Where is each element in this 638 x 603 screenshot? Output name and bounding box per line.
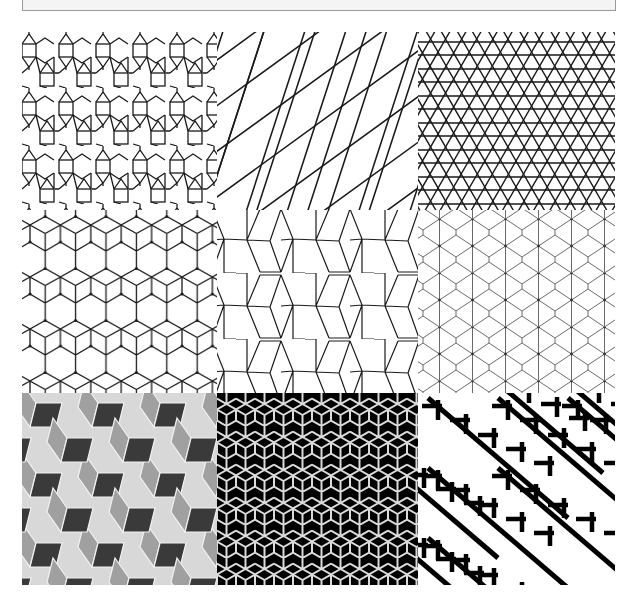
rhombille-lines-pattern bbox=[22, 210, 217, 393]
square-triangle-hexagon-pattern bbox=[22, 32, 217, 210]
panel-elongated-hexagons bbox=[418, 210, 615, 393]
panel-rhombille-lines bbox=[22, 210, 217, 393]
shaded-cubes-pattern bbox=[22, 393, 217, 585]
tessellation-grid bbox=[22, 32, 615, 585]
panel-trihexagonal-lattice bbox=[418, 32, 615, 210]
panel-rotated-square-lines bbox=[217, 32, 418, 210]
rotated-square-lines-pattern bbox=[217, 32, 418, 210]
cairo-pentagonal-pattern bbox=[217, 210, 418, 393]
header-box bbox=[22, 0, 616, 11]
zollner-zigzag-pattern bbox=[418, 393, 615, 585]
panel-cairo-pentagonal bbox=[217, 210, 418, 393]
panel-zollner-zigzags bbox=[418, 393, 615, 585]
elongated-hexagon-pattern bbox=[418, 210, 615, 393]
panel-black-rhombus-stars bbox=[217, 393, 418, 585]
panel-square-triangle-hexagon bbox=[22, 32, 217, 210]
trihexagonal-lattice-pattern bbox=[418, 32, 615, 210]
black-rhombus-stars-pattern bbox=[217, 393, 418, 585]
panel-shaded-cubes bbox=[22, 393, 217, 585]
